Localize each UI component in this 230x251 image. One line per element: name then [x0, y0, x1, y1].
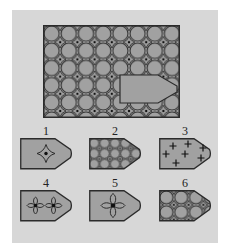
- option-6-label: 6: [159, 176, 211, 190]
- option-1[interactable]: 1: [20, 124, 73, 174]
- option-2[interactable]: 2: [89, 124, 142, 174]
- option-2-shape: [89, 138, 142, 170]
- option-1-label: 1: [20, 124, 72, 138]
- pattern-board: [43, 25, 180, 118]
- option-3-label: 3: [159, 124, 211, 138]
- option-4-shape: [20, 190, 73, 222]
- option-3[interactable]: 3: [159, 124, 212, 174]
- option-5-shape: [89, 190, 142, 222]
- option-4[interactable]: 4: [20, 176, 73, 226]
- option-4-label: 4: [20, 176, 72, 190]
- puzzle-panel: 1 2: [12, 10, 218, 243]
- option-6[interactable]: 6: [159, 176, 212, 226]
- option-5-label: 5: [89, 176, 141, 190]
- option-2-label: 2: [89, 124, 141, 138]
- option-5[interactable]: 5: [89, 176, 142, 226]
- option-1-shape: [20, 138, 73, 170]
- option-3-shape: [159, 138, 212, 170]
- option-6-shape: [159, 190, 212, 222]
